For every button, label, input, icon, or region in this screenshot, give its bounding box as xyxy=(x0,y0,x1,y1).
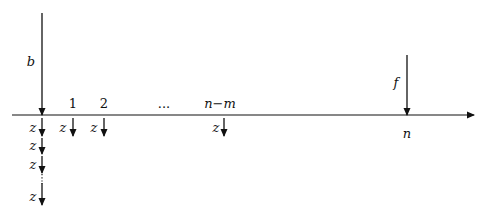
z-label: z xyxy=(29,189,37,204)
label-f: f xyxy=(393,75,401,90)
z-label: z xyxy=(59,120,67,135)
tick-label: 1 xyxy=(69,96,77,111)
tick-label: n xyxy=(403,126,411,141)
z-label: z xyxy=(29,157,37,172)
z-label: z xyxy=(90,120,98,135)
tick-label: n−m xyxy=(204,96,236,111)
z-label: z xyxy=(29,138,37,153)
diagram-canvas: bf12...n−mnzzzzzzz xyxy=(0,0,486,221)
tick-label: 2 xyxy=(100,96,108,111)
z-label: z xyxy=(29,120,37,135)
z-label: z xyxy=(212,120,220,135)
label-b: b xyxy=(27,54,35,69)
tick-label: ... xyxy=(158,96,170,111)
